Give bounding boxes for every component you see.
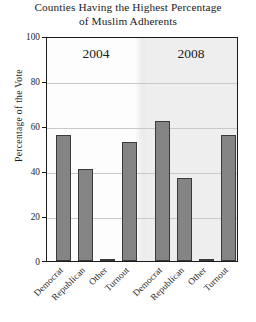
chart-title: Counties Having the Highest Percentage o… [0, 1, 256, 28]
gridline-60 [47, 128, 237, 129]
bar-2008-republican [177, 178, 192, 261]
panel-divider [135, 38, 149, 261]
plot-area: 2004 2008 [46, 37, 238, 262]
gridline-20 [47, 218, 237, 219]
bar-2008-turnout [221, 135, 236, 261]
bar-2008-other [199, 259, 214, 261]
y-tick-label-60: 60 [0, 122, 40, 132]
y-axis-title: Percentage of the Vote [13, 46, 24, 186]
bar-2004-other [100, 259, 115, 261]
gridline-80 [47, 83, 237, 84]
y-tick-label-80: 80 [0, 77, 40, 87]
chart-title-line2: of Muslim Adherents [0, 15, 256, 29]
y-tick-label-0: 0 [0, 257, 40, 267]
panel-label-2008: 2008 [150, 46, 232, 62]
bar-2004-turnout [122, 142, 137, 261]
chart-figure: Counties Having the Highest Percentage o… [0, 0, 256, 322]
bar-2004-democrat [56, 135, 71, 261]
panel-label-2004: 2004 [55, 46, 137, 62]
y-tick-label-100: 100 [0, 32, 40, 42]
y-tick-label-40: 40 [0, 167, 40, 177]
bar-2008-democrat [155, 121, 170, 261]
bar-2004-republican [78, 169, 93, 261]
y-tick-label-20: 20 [0, 212, 40, 222]
chart-title-line1: Counties Having the Highest Percentage [34, 1, 221, 13]
gridline-40 [47, 173, 237, 174]
